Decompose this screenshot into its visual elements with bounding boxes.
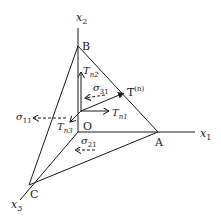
sigma31-label: σ31 [93,82,109,96]
point-o-label: O [83,120,92,133]
sigma21-label: σ21 [81,135,97,149]
edge-bc [29,46,78,185]
traction-label: T(n) [127,85,145,99]
edge-ac [29,132,158,185]
tn2-label: Tn2 [83,65,99,79]
x1-label: x1 [200,127,211,142]
tetrahedron-diagram: x2 x1 x3 B O A C T(n) Tn2 Tn1 Tn3 σ31 σ1… [0,0,221,222]
tn3-label: Tn3 [57,121,73,135]
point-a-label: A [154,136,164,149]
point-c-label: C [30,188,38,201]
sigma11-label: σ11 [16,111,32,125]
tn1-label: Tn1 [112,107,128,121]
x3-label: x3 [11,198,22,213]
tn3-arrow [70,111,81,122]
x3-axis [20,132,78,200]
x2-label: x2 [76,11,87,26]
point-b-label: B [82,40,90,53]
